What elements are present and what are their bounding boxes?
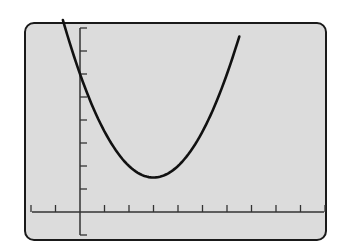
parabola-curve	[63, 20, 239, 177]
graph-plot	[0, 0, 344, 252]
